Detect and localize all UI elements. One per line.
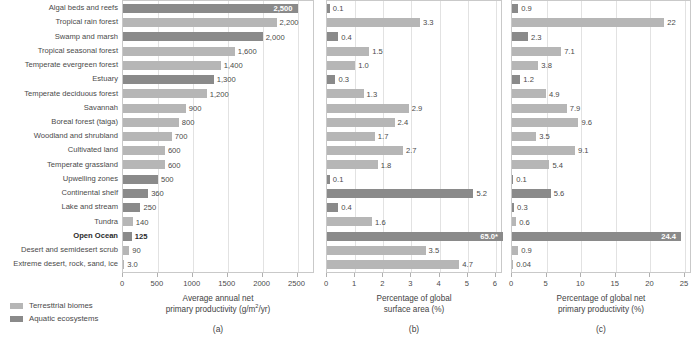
- bar: [512, 32, 528, 41]
- bar-value-label: 5.2: [476, 189, 487, 198]
- axis-tick: [684, 273, 685, 277]
- bar-value-label: 4.9: [549, 90, 560, 99]
- plot-area-b: 0.13.30.41.51.00.31.32.92.41.72.71.80.15…: [326, 0, 502, 273]
- x-axis-title-line1: Percentage of global net: [557, 293, 646, 304]
- bar-value-label: 125: [135, 232, 148, 241]
- axis-tick: [382, 273, 383, 277]
- gridline: [193, 1, 194, 272]
- category-label: Tropical seasonal forest: [0, 46, 118, 55]
- bar: [512, 104, 567, 113]
- category-label: Lake and stream: [0, 202, 118, 211]
- panel-letter: (b): [409, 324, 419, 334]
- bar-value-label: 0.3: [338, 75, 349, 84]
- bar: [123, 32, 263, 41]
- category-label: Boreal forest (taiga): [0, 117, 118, 126]
- axis-tick-label: 2000: [253, 279, 270, 288]
- bar: [123, 61, 221, 70]
- axis-tick-label: 5: [465, 279, 469, 288]
- bar: [512, 18, 664, 27]
- x-axis-title-line1: Percentage of global: [376, 293, 451, 304]
- x-axis-title-line2: surface area (%): [384, 304, 445, 315]
- axis-tick: [467, 273, 468, 277]
- bar-value-label: 7.1: [564, 47, 575, 56]
- bar-value-label: 7.9: [570, 104, 581, 113]
- bar: [327, 75, 335, 84]
- bar: [512, 4, 518, 13]
- bar: [123, 189, 148, 198]
- category-label: Savannah: [0, 103, 118, 112]
- bar-value-label: 600: [168, 161, 181, 170]
- bar: [123, 18, 277, 27]
- category-label: Temperate deciduous forest: [0, 89, 118, 98]
- axis-tick-label: 2: [380, 279, 384, 288]
- axis-tick-label: 3: [408, 279, 412, 288]
- axis-tick: [495, 273, 496, 277]
- bar-value-label: 3.0: [127, 260, 138, 269]
- bar-value-label: 3.3: [423, 18, 434, 27]
- axis-tick-label: 0: [120, 279, 124, 288]
- axis-tick-label: 500: [151, 279, 164, 288]
- category-label: Estuary: [0, 74, 118, 83]
- category-label: Upwelling zones: [0, 174, 118, 183]
- category-label: Extreme desert, rock, sand, ice: [0, 259, 118, 268]
- bar-value-label: 24.4: [661, 232, 676, 241]
- axis-tick-label: 0: [509, 279, 513, 288]
- bar-value-label: 5.4: [552, 161, 563, 170]
- bar: [512, 189, 551, 198]
- bar: [123, 260, 124, 269]
- bar-value-label: 600: [168, 146, 181, 155]
- bar: [123, 104, 186, 113]
- bar: [327, 260, 459, 269]
- bar: [327, 118, 395, 127]
- bar: [327, 18, 420, 27]
- bar-value-label: 500: [161, 175, 174, 184]
- gridline: [298, 1, 299, 272]
- bar-value-label: 0.1: [516, 175, 527, 184]
- bar-value-label: 250: [143, 203, 156, 212]
- bar-value-label: 4.7: [462, 260, 473, 269]
- bar-value-label: 0.4: [341, 203, 352, 212]
- axis-tick: [615, 273, 616, 277]
- bar: [512, 217, 516, 226]
- bar: [512, 146, 575, 155]
- bar-value-label: 1,300: [217, 75, 236, 84]
- axis-tick: [122, 273, 123, 277]
- bar: [327, 189, 473, 198]
- figure-root: Algal beds and reefsTropical rain forest…: [0, 0, 692, 347]
- axis-tick-label: 5: [543, 279, 547, 288]
- axis-tick: [439, 273, 440, 277]
- bar: [123, 4, 298, 13]
- panel-letter: (c): [596, 324, 606, 334]
- bar-value-label: 1.7: [378, 132, 389, 141]
- bar-value-label: 90: [132, 246, 140, 255]
- bar: [512, 160, 549, 169]
- category-label: Temperate grassland: [0, 160, 118, 169]
- bar-value-label: 65.0*: [480, 232, 498, 241]
- bar: [327, 32, 338, 41]
- category-label: Algal beds and reefs: [0, 3, 118, 12]
- bar: [512, 260, 513, 269]
- bar: [512, 203, 514, 212]
- bar-value-label: 0.9: [521, 246, 532, 255]
- bar-value-label: 800: [182, 118, 195, 127]
- axis-tick-label: 25: [680, 279, 688, 288]
- bar-value-label: 1,400: [224, 61, 243, 70]
- bar-value-label: 1.6: [375, 218, 386, 227]
- bar-value-label: 2.4: [398, 118, 409, 127]
- bar: [512, 75, 520, 84]
- category-label: Swamp and marsh: [0, 32, 118, 41]
- bar: [123, 118, 179, 127]
- bar-value-label: 0.3: [517, 203, 528, 212]
- axis-tick: [511, 273, 512, 277]
- bar-value-label: 9.6: [581, 118, 592, 127]
- axis-tick-label: 6: [493, 279, 497, 288]
- bar-value-label: 22: [667, 18, 675, 27]
- axis-tick-label: 2500: [288, 279, 305, 288]
- axis-tick: [326, 273, 327, 277]
- bar: [123, 146, 165, 155]
- bar: [327, 203, 338, 212]
- bar: [123, 160, 165, 169]
- plot-area-a: 2,5002,2002,0001,6001,4001,3001,20090080…: [122, 0, 314, 273]
- axis-tick: [262, 273, 263, 277]
- bar: [327, 175, 330, 184]
